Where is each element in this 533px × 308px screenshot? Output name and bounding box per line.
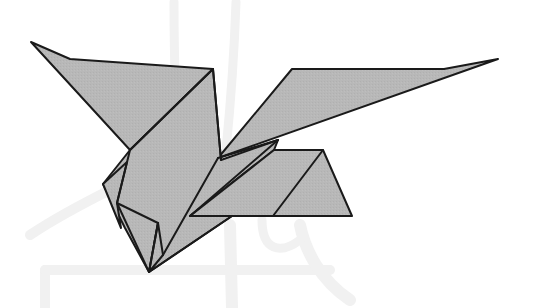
right-wing bbox=[218, 59, 498, 158]
origami-bird-illustration bbox=[0, 0, 533, 308]
